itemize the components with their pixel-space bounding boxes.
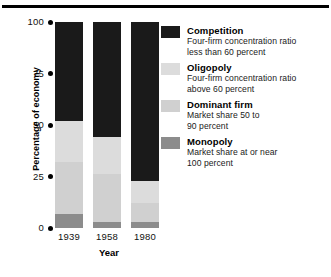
plot-area bbox=[55, 22, 163, 228]
chart-legend: Competition Four-firm concentration rati… bbox=[161, 25, 329, 173]
legend-description-line-2: 100 percent bbox=[187, 158, 329, 169]
bar-segment-dominant-firm bbox=[131, 203, 159, 222]
legend-description-line-2: above 60 percent bbox=[187, 84, 329, 95]
legend-entry-monopoly: Monopoly Market share at or near 100 per… bbox=[161, 136, 329, 168]
bar-segment-monopoly bbox=[131, 222, 159, 228]
legend-swatch-icon bbox=[161, 100, 180, 112]
bar-segment-competition bbox=[131, 22, 159, 181]
legend-swatch-icon bbox=[161, 137, 180, 149]
y-tick-0: 0 bbox=[39, 222, 53, 234]
y-tick-dot-icon bbox=[48, 71, 53, 76]
legend-entry-competition: Competition Four-firm concentration rati… bbox=[161, 25, 329, 57]
legend-description-line-2: 90 percent bbox=[187, 121, 329, 132]
y-tick-dot-icon bbox=[48, 123, 53, 128]
legend-label: Oligopoly bbox=[187, 62, 329, 73]
x-tick-label-1980: 1980 bbox=[131, 231, 159, 242]
bar-segment-competition bbox=[55, 22, 83, 121]
legend-entry-oligopoly: Oligopoly Four-firm concentration ratio … bbox=[161, 62, 329, 94]
legend-swatch-icon bbox=[161, 26, 180, 38]
legend-description-line-1: Four-firm concentration ratio bbox=[187, 73, 329, 84]
legend-description-line-2: less than 60 percent bbox=[187, 47, 329, 58]
top-divider-rule bbox=[2, 5, 329, 8]
bar-segment-oligopoly bbox=[55, 121, 83, 162]
legend-label: Competition bbox=[187, 25, 329, 36]
bar-segment-dominant-firm bbox=[93, 174, 121, 221]
y-tick-dot-icon bbox=[48, 226, 53, 231]
legend-swatch-icon bbox=[161, 63, 180, 75]
chart-figure: 100 75 50 25 0 Percentage of economy bbox=[0, 0, 331, 277]
bar-segment-competition bbox=[93, 22, 121, 137]
x-axis: 1939 1958 1980 bbox=[55, 231, 163, 245]
bar-segment-monopoly bbox=[93, 222, 121, 228]
y-tick-dot-icon bbox=[48, 20, 53, 25]
y-axis: 100 75 50 25 0 Percentage of economy bbox=[18, 22, 53, 228]
bar-segment-monopoly bbox=[55, 214, 83, 228]
y-tick-dot-icon bbox=[48, 174, 53, 179]
y-tick-label: 100 bbox=[28, 16, 44, 28]
x-tick-label-1939: 1939 bbox=[55, 231, 83, 242]
bar-1980 bbox=[131, 22, 159, 228]
legend-description-line-1: Market share 50 to bbox=[187, 110, 329, 121]
x-tick-label-1958: 1958 bbox=[93, 231, 121, 242]
legend-label: Dominant firm bbox=[187, 99, 329, 110]
legend-description-line-1: Four-firm concentration ratio bbox=[187, 36, 329, 47]
y-tick-label: 0 bbox=[39, 222, 44, 234]
legend-label: Monopoly bbox=[187, 136, 329, 147]
legend-description-line-1: Market share at or near bbox=[187, 147, 329, 158]
y-axis-title: Percentage of economy bbox=[31, 54, 41, 184]
bar-1958 bbox=[93, 22, 121, 228]
bar-1939 bbox=[55, 22, 83, 228]
bar-segment-oligopoly bbox=[131, 181, 159, 204]
bar-segment-oligopoly bbox=[93, 137, 121, 174]
x-axis-title: Year bbox=[55, 247, 163, 258]
legend-entry-dominant-firm: Dominant firm Market share 50 to 90 perc… bbox=[161, 99, 329, 131]
y-tick-100: 100 bbox=[28, 16, 53, 28]
bar-segment-dominant-firm bbox=[55, 162, 83, 214]
